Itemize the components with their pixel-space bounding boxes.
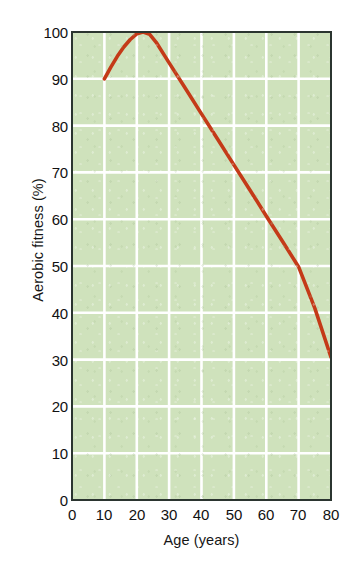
chart-figure: 100 90 80 70 60 50 40 30 20 10 0 0 10 20…	[0, 0, 351, 566]
aerobic-fitness-curve	[104, 32, 331, 357]
plot-top-border	[71, 31, 332, 33]
x-tick-80: 80	[311, 506, 351, 523]
y-axis-title: Aerobic fitness (%)	[30, 110, 46, 370]
plot-canvas	[72, 32, 331, 500]
x-axis-line	[71, 499, 332, 501]
x-axis-title: Age (years)	[72, 532, 331, 548]
y-tick-20: 20	[4, 398, 68, 415]
y-tick-100: 100	[4, 24, 68, 41]
y-tick-10: 10	[4, 445, 68, 462]
plot-right-border	[330, 31, 332, 501]
y-tick-90: 90	[4, 71, 68, 88]
plot-area	[72, 32, 331, 500]
y-axis-line	[71, 31, 73, 501]
x-axis-tick-labels: 0 10 20 30 40 50 60 70 80	[0, 506, 351, 530]
